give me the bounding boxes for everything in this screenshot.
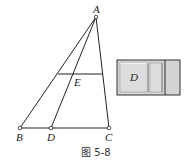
figure-caption: 图 5-8 <box>81 147 111 158</box>
label-e: E <box>73 76 81 88</box>
label-b: B <box>16 131 23 143</box>
box-widget: D <box>117 60 180 95</box>
point-c-dot <box>107 126 111 130</box>
point-d-dot <box>49 126 53 130</box>
label-d: D <box>46 131 55 143</box>
box-panel-small <box>150 63 162 92</box>
label-c: C <box>105 131 113 143</box>
geometry-figure: A B D C E 图 5-8 D <box>0 0 190 162</box>
point-a-dot <box>94 15 98 19</box>
point-b-dot <box>18 126 22 130</box>
segment-ac <box>96 17 109 128</box>
box-label-d: D <box>129 71 138 83</box>
label-a: A <box>92 3 100 15</box>
